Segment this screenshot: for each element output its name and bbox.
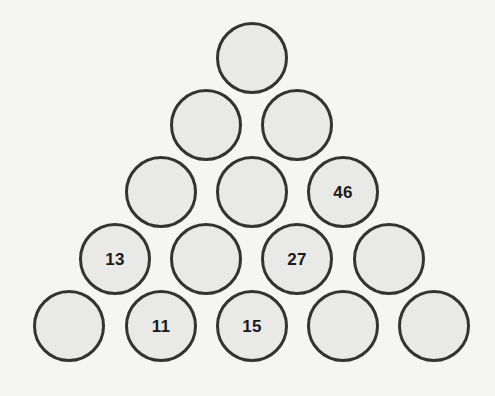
pyramid-circle-r4c4[interactable] <box>353 223 425 295</box>
pyramid-circle-r2c1[interactable] <box>170 89 242 161</box>
pyramid-circle-r2c2[interactable] <box>261 89 333 161</box>
pyramid-circle-value-r3c3: 46 <box>333 184 352 201</box>
pyramid-circle-r5c1[interactable] <box>33 290 105 362</box>
pyramid-circle-r3c2[interactable] <box>216 156 288 228</box>
pyramid-circle-r4c3[interactable]: 27 <box>261 223 333 295</box>
pyramid-circle-value-r4c3: 27 <box>287 251 306 268</box>
pyramid-circle-r3c1[interactable] <box>125 156 197 228</box>
pyramid-circle-r5c5[interactable] <box>398 290 470 362</box>
number-pyramid-canvas: 4613271115 <box>0 0 495 396</box>
pyramid-circle-value-r5c3: 15 <box>242 318 261 335</box>
pyramid-circle-r5c3[interactable]: 15 <box>216 290 288 362</box>
pyramid-circle-r5c4[interactable] <box>307 290 379 362</box>
pyramid-circle-r3c3[interactable]: 46 <box>307 156 379 228</box>
pyramid-circle-r5c2[interactable]: 11 <box>125 290 197 362</box>
pyramid-circle-r4c2[interactable] <box>170 223 242 295</box>
pyramid-circle-value-r5c2: 11 <box>152 318 170 335</box>
pyramid-circle-r4c1[interactable]: 13 <box>79 223 151 295</box>
pyramid-circle-r1c1[interactable] <box>216 22 288 94</box>
pyramid-circle-value-r4c1: 13 <box>105 251 124 268</box>
